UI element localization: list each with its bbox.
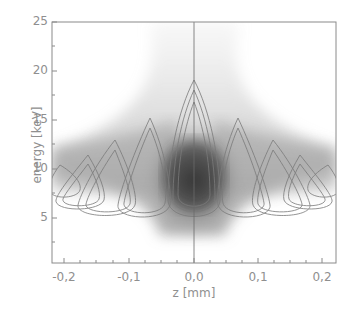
- y-tick-label: 5: [18, 210, 48, 224]
- x-tick-label: 0,1: [238, 270, 278, 284]
- y-tick-label: 25: [18, 14, 48, 28]
- x-axis-ticks: [64, 258, 322, 263]
- y-axis-ticks: [52, 22, 57, 242]
- x-tick-label: -0,2: [44, 270, 84, 284]
- x-tick-label: 0,0: [174, 270, 214, 284]
- x-axis-label: z [mm]: [154, 286, 234, 300]
- y-tick-label: 20: [18, 63, 48, 77]
- x-tick-label: 0,2: [302, 270, 342, 284]
- x-tick-label: -0,1: [109, 270, 149, 284]
- y-axis-label: energy [keV]: [30, 100, 44, 190]
